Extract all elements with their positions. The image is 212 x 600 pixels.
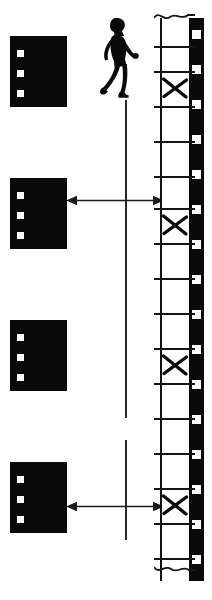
slide-hole	[17, 70, 24, 77]
frame-divider	[154, 208, 195, 210]
frame-divider	[154, 383, 195, 385]
frame-divider	[154, 418, 195, 420]
frame-divider	[154, 141, 195, 143]
slide-hole	[17, 232, 24, 239]
frame-divider	[154, 278, 195, 280]
slide-hole	[17, 192, 24, 199]
slide-hole	[17, 516, 24, 523]
reference-line-segment-upper	[125, 100, 127, 418]
slide-4	[10, 462, 67, 533]
frame-divider	[154, 523, 195, 525]
frame-divider	[154, 106, 195, 108]
frame-divider	[154, 71, 195, 73]
frame-divider	[154, 488, 195, 490]
slide-hole	[17, 496, 24, 503]
frame-divider	[154, 558, 195, 560]
slide-hole	[17, 90, 24, 97]
slide-1	[10, 36, 67, 107]
frame-divider	[154, 176, 195, 178]
frame-divider	[154, 46, 195, 48]
frame-divider	[154, 348, 195, 350]
filmstrip	[160, 18, 204, 581]
arrow-slide4-to-frame4	[66, 500, 164, 513]
slide-hole	[17, 50, 24, 57]
slide-2	[10, 178, 67, 249]
arrow-slide2-to-frame2	[66, 194, 164, 207]
slide-hole	[17, 476, 24, 483]
slide-hole	[17, 212, 24, 219]
filmstrip-torn-top-edge	[154, 8, 195, 24]
reference-line-segment-lower	[125, 440, 127, 540]
frame-divider	[154, 313, 195, 315]
frame-divider	[154, 243, 195, 245]
slide-hole	[17, 334, 24, 341]
diagram-canvas	[0, 0, 212, 600]
walking-person-icon	[93, 17, 139, 100]
slide-3	[10, 320, 67, 391]
filmstrip-torn-bottom-edge	[154, 561, 195, 577]
slide-hole	[17, 374, 24, 381]
sprocket-hole	[192, 30, 201, 39]
slide-hole	[17, 354, 24, 361]
frame-divider	[154, 453, 195, 455]
